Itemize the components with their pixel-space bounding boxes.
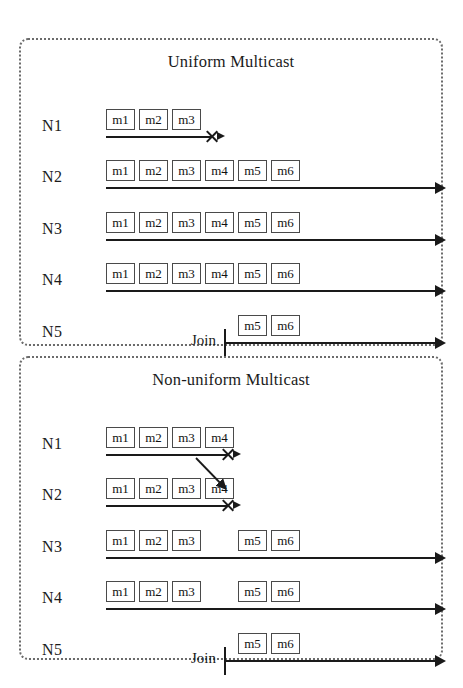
multicast-diagram: Uniform Multicast N1m1m2m3N2m1m2m3m4m5m6…	[0, 0, 463, 688]
timeline-arrowhead-icon	[435, 337, 446, 349]
panel-nonuniform-multicast: Non-uniform Multicast N1m1m2m3m4N2m1m2m3…	[19, 356, 443, 660]
message-box-m3: m3	[172, 581, 201, 602]
message-track: m1m2m3m5m6	[21, 577, 441, 623]
timeline-row-n2: N2m1m2m3m4	[21, 474, 441, 520]
message-track: m1m2m3m4	[21, 423, 441, 469]
timeline-row-n4: N4m1m2m3m4m5m6	[21, 259, 441, 305]
message-box-m3: m3	[172, 530, 201, 551]
message-box-m3: m3	[172, 427, 201, 448]
message-box-m1: m1	[106, 160, 135, 181]
timeline-line	[106, 290, 435, 292]
message-track: m1m2m3	[21, 105, 441, 151]
timeline-arrowhead-icon	[435, 655, 446, 667]
message-track: m1m2m3m4m5m6	[21, 156, 441, 202]
message-box-m1: m1	[106, 212, 135, 233]
timeline-row-n5: N5m5m6Join	[21, 311, 441, 357]
message-box-m3: m3	[172, 160, 201, 181]
join-label: Join	[172, 650, 216, 667]
message-box-m5: m5	[238, 315, 267, 336]
message-box-m5: m5	[238, 581, 267, 602]
message-box-m4: m4	[205, 160, 234, 181]
message-box-m4: m4	[205, 212, 234, 233]
panel-title-uniform: Uniform Multicast	[21, 52, 441, 72]
timeline-line	[106, 239, 435, 241]
timeline-line	[106, 557, 435, 559]
timeline-row-n1: N1m1m2m3m4	[21, 423, 441, 469]
message-box-m5: m5	[238, 263, 267, 284]
message-box-m1: m1	[106, 427, 135, 448]
message-box-m1: m1	[106, 109, 135, 130]
message-box-m5: m5	[238, 212, 267, 233]
message-box-m5: m5	[238, 160, 267, 181]
message-box-m1: m1	[106, 478, 135, 499]
message-box-m2: m2	[139, 581, 168, 602]
timeline-row-n3: N3m1m2m3m5m6	[21, 526, 441, 572]
message-box-m4: m4	[205, 478, 234, 499]
message-box-m2: m2	[139, 212, 168, 233]
join-tick-mark	[224, 329, 226, 357]
timeline-row-n3: N3m1m2m3m4m5m6	[21, 208, 441, 254]
timeline-line	[106, 505, 227, 507]
message-track: m1m2m3m5m6	[21, 526, 441, 572]
timeline-row-n2: N2m1m2m3m4m5m6	[21, 156, 441, 202]
message-box-m3: m3	[172, 263, 201, 284]
message-box-m1: m1	[106, 530, 135, 551]
message-box-m2: m2	[139, 427, 168, 448]
message-box-m6: m6	[271, 160, 300, 181]
timeline-line	[106, 187, 435, 189]
timeline-arrowhead-icon	[435, 182, 446, 194]
message-box-m4: m4	[205, 427, 234, 448]
panel-uniform-multicast: Uniform Multicast N1m1m2m3N2m1m2m3m4m5m6…	[19, 38, 443, 346]
message-box-m6: m6	[271, 315, 300, 336]
panel-title-nonuniform: Non-uniform Multicast	[21, 370, 441, 390]
timeline-arrowhead-icon	[435, 285, 446, 297]
timeline-line	[106, 608, 435, 610]
message-box-m5: m5	[238, 530, 267, 551]
message-track: m1m2m3m4m5m6	[21, 259, 441, 305]
timeline-arrowhead-icon	[233, 450, 241, 458]
join-tick-mark	[224, 647, 226, 675]
timeline-arrowhead-icon	[435, 234, 446, 246]
timeline-arrowhead-icon	[233, 501, 241, 509]
message-box-m2: m2	[139, 160, 168, 181]
message-box-m1: m1	[106, 263, 135, 284]
timeline-arrowhead-icon	[217, 132, 225, 140]
timeline-line	[224, 660, 435, 662]
message-track: m5m6	[21, 311, 441, 357]
message-box-m5: m5	[238, 633, 267, 654]
message-box-m1: m1	[106, 581, 135, 602]
message-box-m2: m2	[139, 263, 168, 284]
message-box-m3: m3	[172, 478, 201, 499]
message-box-m6: m6	[271, 581, 300, 602]
join-label: Join	[172, 332, 216, 349]
message-box-m2: m2	[139, 530, 168, 551]
timeline-line	[106, 136, 211, 138]
message-box-m2: m2	[139, 109, 168, 130]
timeline-row-n5: N5m5m6Join	[21, 629, 441, 675]
message-box-m6: m6	[271, 530, 300, 551]
message-track: m1m2m3m4	[21, 474, 441, 520]
timeline-line	[224, 342, 435, 344]
message-box-m6: m6	[271, 212, 300, 233]
timeline-arrowhead-icon	[435, 603, 446, 615]
timeline-line	[106, 454, 227, 456]
timeline-row-n4: N4m1m2m3m5m6	[21, 577, 441, 623]
message-track: m1m2m3m4m5m6	[21, 208, 441, 254]
message-track: m5m6	[21, 629, 441, 675]
message-box-m6: m6	[271, 263, 300, 284]
message-box-m4: m4	[205, 263, 234, 284]
message-box-m3: m3	[172, 109, 201, 130]
message-box-m3: m3	[172, 212, 201, 233]
message-box-m6: m6	[271, 633, 300, 654]
timeline-row-n1: N1m1m2m3	[21, 105, 441, 151]
message-box-m2: m2	[139, 478, 168, 499]
timeline-arrowhead-icon	[435, 552, 446, 564]
